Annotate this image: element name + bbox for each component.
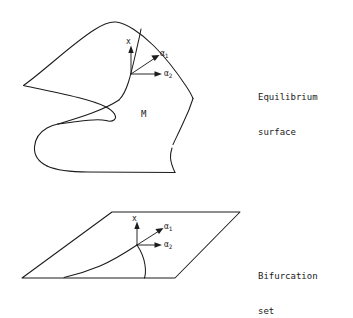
axis-alpha2-arrowhead-bottom xyxy=(155,242,163,247)
caption-bifurcation-set-line2: set xyxy=(258,306,318,318)
caption-bifurcation-set: Bifurcation set xyxy=(258,248,318,318)
equilibrium-surface-drawing xyxy=(24,22,194,173)
equilibrium-surface-axes xyxy=(128,46,162,77)
surface-lower-fold-curve xyxy=(34,124,58,166)
axis-x-label-top: x xyxy=(126,36,131,47)
bifurcation-set-drawing xyxy=(22,212,240,278)
cusp-curve-left-branch xyxy=(64,245,137,278)
axis-alpha2-subscript-top: 2 xyxy=(169,72,173,79)
surface-right-edge-upper xyxy=(173,99,193,145)
surface-fold-nose xyxy=(106,114,116,121)
axis-alpha2-subscript-bottom: 2 xyxy=(169,243,173,250)
axis-alpha1-label-top: α1 xyxy=(160,48,168,59)
caption-equilibrium-surface-line2: surface xyxy=(258,127,318,139)
surface-bottom-front-edge xyxy=(47,166,175,173)
bifurcation-set-axes xyxy=(134,222,163,248)
axis-alpha1-label-bottom: α1 xyxy=(164,221,172,232)
axis-alpha1-subscript-top: 1 xyxy=(165,52,169,59)
surface-upper-ridge xyxy=(24,22,194,99)
axis-alpha2-label-top: α2 xyxy=(164,68,172,79)
control-plane-outline xyxy=(22,212,240,278)
surface-right-edge-lower xyxy=(170,148,175,173)
axis-alpha2-arrowhead-top xyxy=(155,71,163,76)
axis-alpha1-arrowhead-bottom xyxy=(155,228,163,234)
caption-equilibrium-surface: Equilibrium surface xyxy=(258,69,318,161)
axis-x-label-bottom: x xyxy=(132,213,137,224)
caption-equilibrium-surface-line1: Equilibrium xyxy=(258,92,318,104)
caption-bifurcation-set-line1: Bifurcation xyxy=(258,271,318,283)
cusp-curve-right-branch xyxy=(137,245,145,278)
axis-alpha1-subscript-bottom: 1 xyxy=(169,225,173,232)
surface-region-label-m: M xyxy=(141,109,146,120)
axis-alpha2-label-bottom: α2 xyxy=(164,239,172,250)
